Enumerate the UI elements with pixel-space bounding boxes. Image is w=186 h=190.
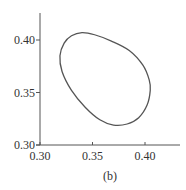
y-tick-label: 0.40 <box>14 33 35 47</box>
y-tick-label: 0.35 <box>14 86 35 100</box>
tick-labels: 0.300.350.400.300.350.40 <box>14 33 156 163</box>
x-tick-label: 0.40 <box>135 149 156 163</box>
orbit-path <box>60 33 151 126</box>
orbit-chart: 0.300.350.400.300.350.40 (b) <box>0 0 186 190</box>
axes <box>36 13 180 145</box>
closed-curve <box>60 33 151 126</box>
x-tick-label: 0.35 <box>82 149 103 163</box>
x-tick-label: 0.30 <box>30 149 51 163</box>
figure-caption: (b) <box>103 169 117 183</box>
